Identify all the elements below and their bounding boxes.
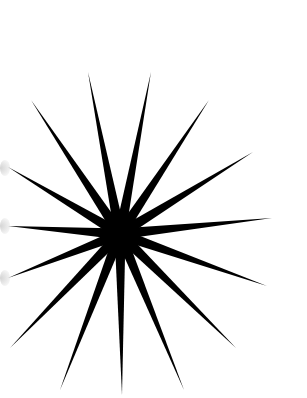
starburst-image — [0, 0, 307, 398]
edge-smudge — [0, 270, 10, 286]
edge-smudge — [0, 160, 10, 176]
star-ray — [31, 100, 125, 237]
star-ray — [116, 230, 236, 348]
edge-smudge — [0, 218, 10, 234]
starburst-icon — [0, 0, 307, 398]
star-ray — [10, 230, 124, 348]
star-core — [106, 220, 134, 248]
star-ray — [115, 234, 126, 395]
